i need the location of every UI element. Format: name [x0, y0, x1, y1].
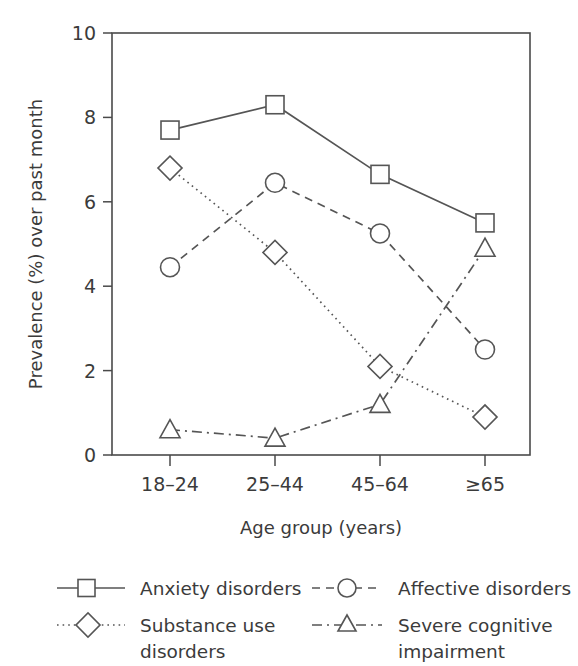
series-substance-use-disorders: [158, 156, 497, 429]
x-axis-tick-labels: 18–24 25–44 45–64 ≥65: [141, 473, 505, 495]
square-marker-icon: [476, 214, 494, 232]
square-marker-icon: [371, 165, 389, 183]
legend-entry-severe-cognitive-impairment[interactable]: Severe cognitive impairment: [312, 615, 553, 662]
series-line-square: [170, 105, 485, 223]
legend-label-severe-cognitive-line2: impairment: [398, 641, 505, 662]
legend-label-anxiety-disorders: Anxiety disorders: [140, 578, 301, 599]
y-axis-tick-labels: 10 8 6 4 2 0: [72, 22, 96, 466]
x-tick-label-18-24: 18–24: [141, 473, 199, 495]
prevalence-line-chart: 10 8 6 4 2 0 Prevalence (%) over past mo…: [0, 0, 578, 666]
circle-marker-icon: [476, 340, 495, 359]
x-tick-label-25-44: 25–44: [246, 473, 304, 495]
circle-marker-icon: [371, 224, 390, 243]
circle-marker-icon: [338, 579, 356, 597]
chart-figure: 10 8 6 4 2 0 Prevalence (%) over past mo…: [0, 0, 578, 666]
triangle-marker-icon: [338, 615, 356, 631]
legend-label-substance-use-line2: disorders: [140, 641, 226, 662]
diamond-marker-icon: [473, 405, 497, 429]
x-axis-ticks: [170, 455, 485, 466]
triangle-marker-icon: [160, 420, 180, 438]
y-axis-ticks: [103, 33, 112, 455]
series-affective-disorders: [161, 173, 495, 359]
y-tick-label-4: 4: [84, 275, 96, 297]
square-marker-icon: [161, 121, 179, 139]
y-tick-label-10: 10: [72, 22, 96, 44]
x-tick-label-65plus: ≥65: [465, 473, 505, 495]
x-axis-title: Age group (years): [240, 517, 402, 538]
y-tick-label-8: 8: [84, 106, 96, 128]
y-axis-title: Prevalence (%) over past month: [25, 99, 46, 389]
legend-label-affective-disorders: Affective disorders: [398, 578, 571, 599]
legend-label-severe-cognitive-line1: Severe cognitive: [398, 615, 553, 636]
diamond-marker-icon: [158, 156, 182, 180]
series-layer: [158, 96, 497, 446]
plot-frame: [112, 33, 530, 455]
diamond-marker-icon: [368, 354, 392, 378]
y-tick-label-2: 2: [84, 360, 96, 382]
y-tick-label-0: 0: [84, 444, 96, 466]
triangle-marker-icon: [475, 238, 495, 256]
diamond-marker-icon: [76, 613, 100, 637]
legend-entry-anxiety-disorders[interactable]: Anxiety disorders: [57, 578, 301, 599]
legend-entry-substance-use-disorders[interactable]: Substance use disorders: [57, 613, 275, 662]
triangle-marker-icon: [265, 428, 285, 446]
chart-legend: Anxiety disorders Substance use disorder…: [57, 578, 571, 662]
series-line-diamond: [170, 168, 485, 417]
triangle-marker-icon: [370, 394, 390, 412]
series-anxiety-disorders: [161, 96, 494, 232]
circle-marker-icon: [266, 173, 285, 192]
legend-entry-affective-disorders[interactable]: Affective disorders: [312, 578, 571, 599]
x-tick-label-45-64: 45–64: [351, 473, 409, 495]
legend-label-substance-use-line1: Substance use: [140, 615, 275, 636]
series-line-triangle: [170, 248, 485, 438]
circle-marker-icon: [161, 258, 180, 277]
series-line-circle: [170, 183, 485, 350]
square-marker-icon: [78, 580, 95, 597]
square-marker-icon: [266, 96, 284, 114]
series-severe-cognitive-impairment: [160, 238, 495, 446]
y-tick-label-6: 6: [84, 191, 96, 213]
